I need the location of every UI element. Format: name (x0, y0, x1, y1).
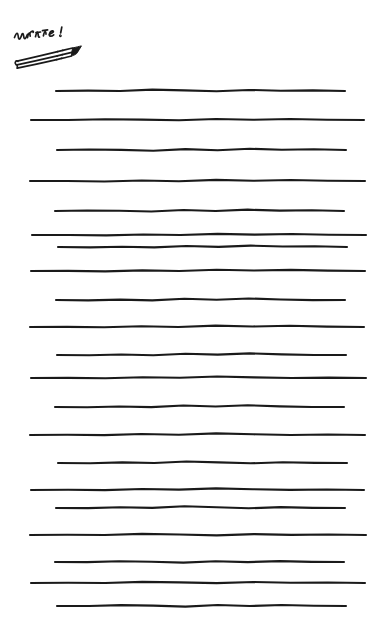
writing-worksheet-page (0, 0, 387, 626)
ruled-line (30, 534, 366, 535)
ruled-line (55, 405, 344, 407)
ruled-line (56, 90, 345, 92)
ruled-line (57, 605, 346, 607)
ruled-line (55, 210, 344, 212)
ruled-line (30, 326, 364, 328)
ruled-line (32, 234, 366, 235)
ruled-line (58, 246, 347, 248)
ruled-line (30, 433, 365, 435)
ruled-line (31, 119, 364, 120)
ruled-line (31, 270, 365, 272)
ruled-line (58, 462, 347, 464)
ruled-line (56, 506, 345, 508)
ruled-line (57, 353, 346, 355)
ruled-line (57, 149, 346, 151)
ruled-line (31, 582, 365, 583)
ruled-line (30, 180, 365, 182)
ruled-line (55, 561, 344, 563)
ruled-line (31, 377, 366, 379)
ruled-line (31, 488, 364, 490)
ruled-lines-group (0, 0, 387, 626)
ruled-line (56, 298, 345, 300)
